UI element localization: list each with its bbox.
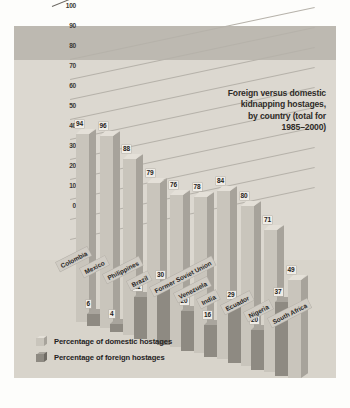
bar-domestic-philippines-value: 88 <box>122 145 131 153</box>
chart-plate: 0102030405060708090100 Foreign versus do… <box>14 26 336 378</box>
bar-domestic-mexico-value: 96 <box>99 122 108 130</box>
category-label-india: India <box>197 290 220 308</box>
category-label-south-africa: South Africa <box>267 298 311 327</box>
legend-swatch-foreign-icon <box>36 352 47 362</box>
bar-foreign-ecuador: 20 <box>251 330 264 370</box>
y-axis-tick-70: 70 <box>69 61 76 71</box>
legend-item-foreign: Percentage of foreign hostages <box>36 350 172 364</box>
bar-domestic-brazil-value: 79 <box>146 169 155 177</box>
kidnapping-hostages-bar-chart: 0102030405060708090100 Foreign versus do… <box>0 0 350 408</box>
y-axis-tick-90: 90 <box>69 21 76 31</box>
legend-item-domestic: Percentage of domestic hostages <box>36 334 172 348</box>
category-labels: ColombiaMexicoPhilippinesBrazilFormer So… <box>60 242 340 334</box>
chart-legend: Percentage of domestic hostages Percenta… <box>36 334 172 366</box>
chart-top-band <box>14 26 336 60</box>
legend-label-domestic: Percentage of domestic hostages <box>54 337 172 346</box>
y-axis-tick-10: 10 <box>69 181 76 191</box>
legend-label-foreign: Percentage of foreign hostages <box>54 353 165 362</box>
bar-domestic-nigeria-value: 71 <box>263 216 272 224</box>
y-axis-tick-80: 80 <box>69 41 76 51</box>
y-axis-tick-30: 30 <box>69 141 76 151</box>
y-axis-tick-100: 100 <box>66 1 76 11</box>
y-axis-tick-50: 50 <box>69 101 76 111</box>
y-axis-tick-60: 60 <box>69 81 76 91</box>
bar-domestic-former-soviet-union-value: 76 <box>169 181 178 189</box>
bar-domestic-india-value: 84 <box>216 177 225 185</box>
category-label-brazil: Brazil <box>126 271 151 291</box>
bar-domestic-colombia-value: 94 <box>75 120 84 128</box>
bar-domestic-venezuela-value: 78 <box>193 183 202 191</box>
y-axis-tick-20: 20 <box>69 161 76 171</box>
bar-domestic-ecuador-value: 80 <box>240 192 249 200</box>
legend-swatch-domestic-icon <box>36 336 47 346</box>
